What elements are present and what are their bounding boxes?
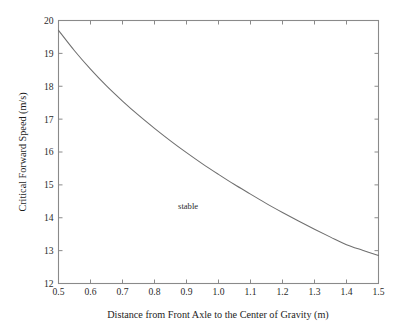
- y-tick-label: 19: [44, 48, 54, 59]
- x-tick-label: 1.3: [309, 286, 321, 297]
- y-tick-label: 14: [44, 212, 54, 223]
- chart-svg-canvas: 0.50.60.70.80.91.01.11.21.31.41.5 121314…: [0, 0, 405, 331]
- y-tick-label: 17: [44, 114, 54, 125]
- y-tick-label: 12: [44, 278, 54, 289]
- y-axis-title: Critical Forward Speed (m/s): [17, 92, 29, 211]
- chart-figure-root: 0.50.60.70.80.91.01.11.21.31.41.5 121314…: [0, 0, 405, 331]
- x-tick-label: 0.6: [85, 286, 97, 297]
- x-tick-label: 1.2: [277, 286, 289, 297]
- y-tick-label: 16: [44, 146, 54, 157]
- x-tick-label: 0.8: [149, 286, 161, 297]
- chart-annotations-layer: stable: [178, 201, 198, 211]
- x-tick-label: 0.9: [181, 286, 193, 297]
- y-tick-label: 20: [44, 15, 54, 26]
- y-tick-label: 18: [44, 81, 54, 92]
- x-tick-label: 1.1: [245, 286, 257, 297]
- x-tick-label: 0.7: [117, 286, 129, 297]
- y-axis-tick-labels: 121314151617181920: [44, 15, 54, 289]
- x-tick-label: 1.0: [213, 286, 225, 297]
- y-tick-label: 15: [44, 179, 54, 190]
- figure-background: [0, 0, 405, 331]
- x-tick-label: 1.4: [341, 286, 353, 297]
- x-axis-title: Distance from Front Axle to the Center o…: [107, 309, 329, 321]
- annotation-stable: stable: [178, 201, 198, 211]
- x-tick-label: 1.5: [373, 286, 385, 297]
- y-tick-label: 13: [44, 245, 54, 256]
- x-tick-label: 0.5: [53, 286, 65, 297]
